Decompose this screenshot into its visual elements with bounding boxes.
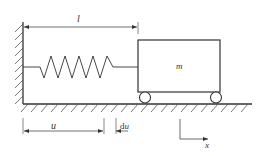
wall-hatching <box>15 24 23 104</box>
displacement-label: u <box>51 120 56 131</box>
mass-label: m <box>176 61 183 71</box>
dimension-du: du <box>116 118 130 134</box>
wheels <box>140 92 222 103</box>
mass-spring-diagram: l m u du x <box>0 0 259 156</box>
dimension-l: l <box>24 13 138 34</box>
ground <box>21 104 252 112</box>
dimension-u: u <box>23 118 104 134</box>
length-label: l <box>77 13 80 24</box>
fixed-wall <box>15 22 23 104</box>
ground-hatching <box>21 104 248 112</box>
x-axis: x <box>180 119 209 150</box>
wheel-left <box>140 92 151 103</box>
axis-label: x <box>204 140 209 150</box>
wheel-right <box>211 92 222 103</box>
increment-label: du <box>120 121 130 131</box>
spring <box>23 56 138 78</box>
mass-block: m <box>138 40 220 92</box>
